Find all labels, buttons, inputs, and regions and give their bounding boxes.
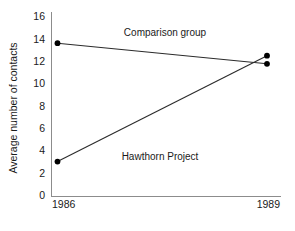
y-tick-label-16: 16: [33, 10, 45, 22]
x-tick-label-1986: 1986: [52, 198, 76, 210]
y-tick-label-12: 12: [33, 55, 45, 67]
annotation-comparison-group: Comparison group: [124, 27, 207, 38]
data-point-comparison-1989: [264, 61, 270, 67]
y-axis-label: Average number of contacts: [7, 42, 19, 173]
y-tick-label-10: 10: [33, 77, 45, 89]
data-point-comparison-1986: [55, 40, 61, 46]
y-tick-label-8: 8: [39, 100, 45, 112]
y-tick-label-4: 4: [39, 144, 45, 156]
x-tick-label-1989: 1989: [257, 198, 281, 210]
data-point-hawthorn-1986: [55, 159, 61, 165]
y-tick-label-6: 6: [39, 122, 45, 134]
series-line-hawthorn-project: [58, 56, 268, 162]
line-chart: Average number of contacts 16 14 12 10 8…: [0, 0, 295, 231]
series-line-comparison-group: [58, 43, 268, 64]
y-tick-label-2: 2: [39, 167, 45, 179]
y-tick-label-0: 0: [39, 189, 45, 201]
chart-canvas: Average number of contacts 16 14 12 10 8…: [0, 0, 295, 231]
y-tick-label-14: 14: [33, 33, 45, 45]
data-point-hawthorn-1989: [264, 53, 270, 59]
annotation-hawthorn-project: Hawthorn Project: [122, 151, 199, 162]
